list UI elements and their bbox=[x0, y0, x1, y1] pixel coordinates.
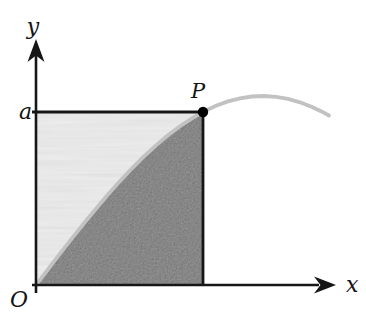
figure-canvas: y x a O P bbox=[0, 0, 366, 322]
y-axis-label: y bbox=[26, 14, 40, 39]
origin-label: O bbox=[10, 287, 28, 312]
point-p-marker bbox=[198, 107, 208, 117]
x-axis-label: x bbox=[346, 272, 359, 297]
ordinate-a-label: a bbox=[19, 99, 32, 124]
diagram-svg: y x a O P bbox=[0, 0, 366, 322]
point-p-label: P bbox=[190, 79, 206, 103]
